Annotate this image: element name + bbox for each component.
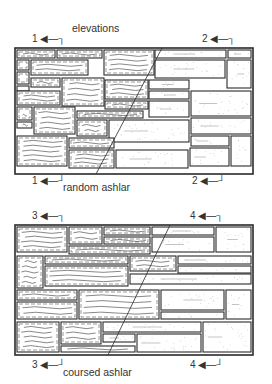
textured-stone [17,50,55,58]
smooth-stone [149,101,189,117]
smooth-stone [191,136,229,146]
textured-stone [17,322,59,352]
textured-stone [62,78,104,106]
textured-stone [105,101,148,109]
textured-stone [105,80,148,99]
smooth-stone [155,50,226,58]
textured-stone [17,60,29,70]
smooth-stone [161,312,224,319]
smooth-stone [190,148,229,166]
smooth-stone [152,227,214,235]
smooth-stone [231,136,251,166]
smooth-stone [178,256,251,264]
smooth-stone [228,50,251,58]
textured-stone [34,107,75,134]
wall-coursed-ashlar [15,225,253,355]
smooth-stone [191,118,251,134]
smooth-stone [109,120,189,142]
textured-stone [31,78,60,87]
textured-stone [104,50,154,75]
textured-stone [45,266,128,286]
smooth-stone [130,274,251,284]
textured-stone [31,60,88,75]
smooth-stone [149,80,189,89]
smooth-stone [103,334,135,342]
textured-stone [104,237,150,244]
wall-elevations-drawing [0,0,272,384]
smooth-stone [161,290,224,310]
textured-stone [17,256,43,288]
textured-stone [61,322,101,344]
textured-stone [61,346,135,352]
smooth-stone [137,334,201,352]
textured-stone [130,256,176,271]
smooth-stone [152,237,214,252]
textured-stone [17,302,77,319]
textured-stone [17,227,67,252]
textured-stone [69,246,150,254]
textured-stone [17,107,32,120]
textured-stone [57,50,102,58]
smooth-stone [226,290,251,319]
textured-stone [69,138,114,148]
textured-stone [77,120,107,136]
smooth-stone [216,227,251,252]
textured-stone [17,122,32,128]
textured-stone [69,227,102,244]
textured-stone [79,290,159,319]
textured-stone [77,111,143,118]
textured-stone [17,91,60,105]
smooth-stone [191,91,251,116]
smooth-stone [178,266,251,273]
wall-random-ashlar [15,48,253,174]
smooth-stone [155,60,225,78]
textured-stone [104,227,150,235]
smooth-stone [103,322,201,332]
smooth-stone [203,322,251,352]
textured-stone [17,136,67,166]
smooth-stone [149,91,189,99]
textured-stone [17,72,29,84]
smooth-stone [227,60,251,88]
textured-stone [17,86,29,91]
textured-stone [17,290,77,300]
textured-stone [45,256,128,264]
smooth-stone [116,150,188,168]
